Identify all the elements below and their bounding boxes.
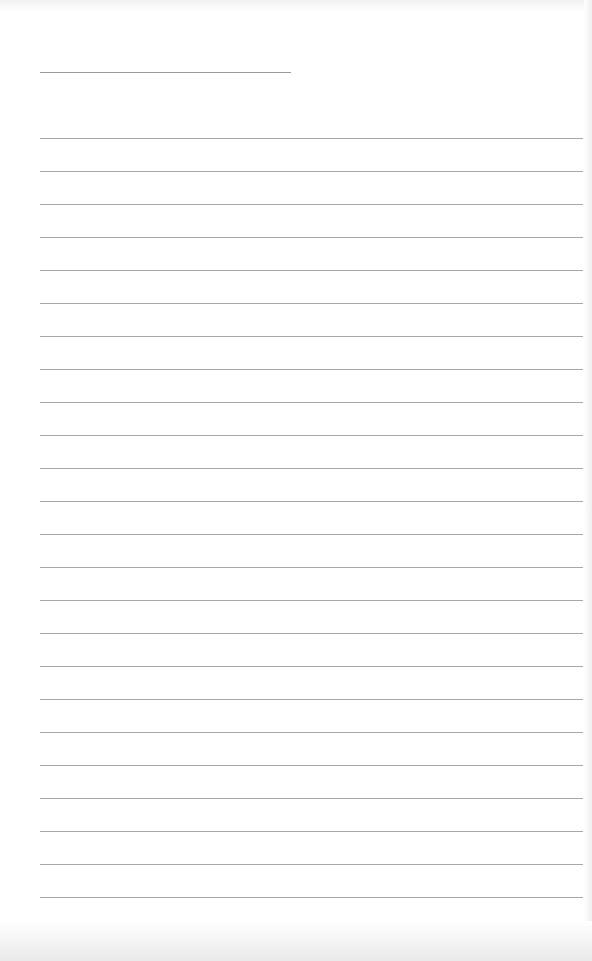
ruled-line — [40, 303, 583, 304]
ruled-line — [40, 765, 583, 766]
ruled-line — [40, 600, 583, 601]
title-line — [40, 72, 291, 73]
ruled-line — [40, 897, 583, 898]
lined-paper-page — [0, 0, 592, 961]
ruled-line — [40, 798, 583, 799]
ruled-line — [40, 732, 583, 733]
ruled-line — [40, 567, 583, 568]
ruled-line — [40, 534, 583, 535]
paper-edge-bottom — [0, 921, 592, 961]
ruled-line — [40, 633, 583, 634]
ruled-line — [40, 468, 583, 469]
ruled-line — [40, 402, 583, 403]
ruled-line — [40, 864, 583, 865]
ruled-line — [40, 138, 583, 139]
ruled-line — [40, 501, 583, 502]
ruled-line — [40, 336, 583, 337]
ruled-line — [40, 699, 583, 700]
ruled-line — [40, 666, 583, 667]
paper-edge-right — [584, 0, 592, 961]
ruled-line — [40, 435, 583, 436]
ruled-line — [40, 369, 583, 370]
ruled-line — [40, 204, 583, 205]
ruled-line — [40, 831, 583, 832]
ruled-line — [40, 171, 583, 172]
ruled-line — [40, 237, 583, 238]
ruled-line — [40, 270, 583, 271]
paper-edge-top — [0, 0, 592, 12]
